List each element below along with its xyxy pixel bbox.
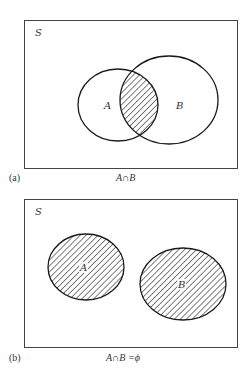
set-a-label-a: A <box>103 100 111 111</box>
panel-b: S A B (b) A∩B =ϕ <box>9 200 238 365</box>
set-b-label-b: B <box>177 279 185 290</box>
set-b-label-a: B <box>175 100 183 111</box>
caption-a: A∩B <box>115 172 135 183</box>
panel-tag-b: (b) <box>9 352 21 364</box>
panel-tag-a: (a) <box>9 172 20 184</box>
universe-label-b: S <box>35 206 42 217</box>
caption-b: A∩B =ϕ <box>105 352 140 363</box>
set-a-label-b: A <box>79 262 87 273</box>
universe-label-a: S <box>35 27 42 38</box>
panel-a: S A B (a) A∩B <box>9 21 238 185</box>
